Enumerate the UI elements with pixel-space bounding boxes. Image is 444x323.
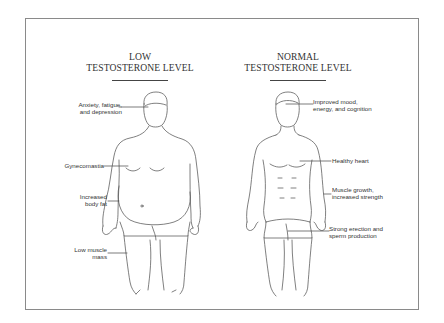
label-gynecomastia: Gynecomastia bbox=[60, 162, 104, 169]
label-erection-line2: sperm production bbox=[329, 232, 383, 239]
label-muscle-line2: increased strength bbox=[332, 193, 383, 200]
label-mood: Improved mood, energy, and cognition bbox=[313, 98, 372, 113]
label-anxiety: Anxiety, fatigue, and depression bbox=[68, 101, 122, 116]
label-mood-line1: Improved mood, bbox=[313, 98, 372, 105]
label-low-muscle-line1: Low muscle bbox=[60, 246, 107, 253]
label-anxiety-line2: and depression bbox=[68, 108, 122, 115]
label-heart-line1: Healthy heart bbox=[332, 157, 369, 164]
normal-testosterone-figure bbox=[246, 92, 325, 296]
label-muscle: Muscle growth, increased strength bbox=[332, 186, 383, 201]
label-body-fat-line2: body fat bbox=[62, 200, 107, 207]
label-mood-line2: energy, and cognition bbox=[313, 105, 372, 112]
label-heart: Healthy heart bbox=[332, 157, 369, 164]
label-low-muscle: Low muscle mass bbox=[60, 246, 107, 261]
label-body-fat: Increased body fat bbox=[62, 193, 107, 208]
label-erection: Strong erection and sperm production bbox=[329, 225, 383, 240]
label-anxiety-line1: Anxiety, fatigue, bbox=[68, 101, 122, 108]
label-body-fat-line1: Increased bbox=[62, 193, 107, 200]
low-testosterone-figure bbox=[102, 92, 200, 294]
label-gynecomastia-line1: Gynecomastia bbox=[60, 162, 104, 169]
label-low-muscle-line2: mass bbox=[60, 253, 107, 260]
label-erection-line1: Strong erection and bbox=[329, 225, 383, 232]
label-muscle-line1: Muscle growth, bbox=[332, 186, 383, 193]
